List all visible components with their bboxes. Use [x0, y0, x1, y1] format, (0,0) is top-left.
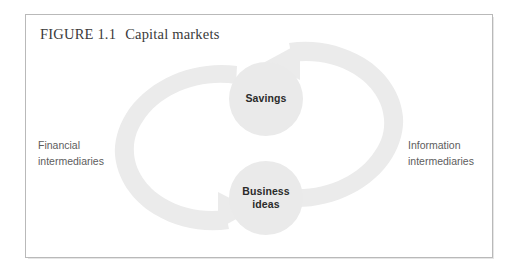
node-business-ideas-label-line2: ideas	[252, 198, 279, 210]
node-savings-label: Savings	[246, 92, 287, 105]
caption-financial-line2: intermediaries	[38, 155, 104, 167]
node-business-ideas-label: Business ideas	[242, 185, 290, 211]
node-business-ideas-label-line1: Business	[242, 185, 290, 197]
node-business-ideas: Business ideas	[229, 161, 303, 235]
caption-financial-line1: Financial	[38, 139, 80, 151]
node-savings: Savings	[229, 62, 303, 136]
caption-financial-intermediaries: Financial intermediaries	[38, 138, 104, 170]
figure-root: FIGURE 1.1Capital markets Savings Busine	[0, 0, 517, 279]
caption-information-line1: Information	[408, 139, 461, 151]
caption-information-intermediaries: Information intermediaries	[408, 138, 474, 170]
capital-markets-diagram: Savings Business ideas Financial interme…	[25, 14, 493, 258]
caption-information-line2: intermediaries	[408, 155, 474, 167]
